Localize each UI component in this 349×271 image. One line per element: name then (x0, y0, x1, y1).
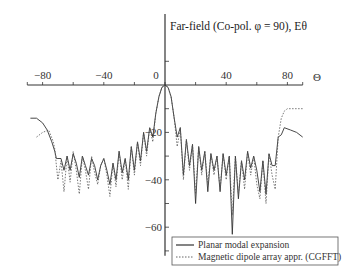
x-tick-label: −80 (34, 69, 52, 81)
x-tick-label: −40 (95, 69, 113, 81)
x-tick-label: 40 (221, 69, 233, 81)
legend-label-planar: Planar modal expansion (198, 240, 290, 250)
x-axis-label: Θ (313, 71, 321, 83)
series-line-planar (30, 85, 302, 234)
x-tick-label: 0 (153, 69, 159, 81)
series-line-cgfft (37, 85, 303, 215)
legend: Planar modal expansion Magnetic dipole a… (172, 237, 341, 265)
y-tick-label: −60 (145, 221, 163, 233)
far-field-chart: −80−4004080−20−40−60 Far-field (Co-pol. … (0, 0, 349, 271)
x-tick-label: 80 (282, 69, 294, 81)
series-group (30, 85, 302, 234)
y-tick-label: −40 (145, 174, 163, 186)
legend-label-cgfft: Magnetic dipole array appr. (CGFFT) (198, 252, 341, 263)
chart-title: Far-field (Co-pol. φ = 90), Eθ (170, 20, 307, 33)
axes (27, 14, 302, 256)
